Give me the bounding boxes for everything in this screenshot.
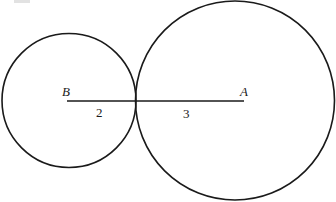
length-label-b-radius: 2 (96, 105, 103, 120)
cutoff-label-fragment (14, 0, 30, 3)
point-label-a: A (239, 84, 248, 99)
tangent-circles-diagram: B A 2 3 (0, 0, 336, 202)
length-label-a-radius: 3 (183, 106, 190, 121)
point-label-b: B (62, 84, 70, 99)
